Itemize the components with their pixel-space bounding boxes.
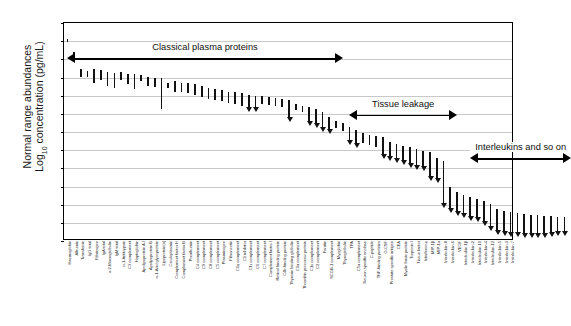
- down-arrow-icon: [455, 211, 461, 216]
- down-arrow-icon: [394, 158, 400, 163]
- x-axis-tick-label: Complement factor I: [269, 241, 273, 277]
- range-bar: [261, 96, 263, 104]
- down-arrow-icon: [448, 208, 454, 213]
- x-axis-tick-label: Interleukin-6: [451, 241, 455, 263]
- range-bar: [456, 192, 458, 212]
- range-bar: [281, 99, 283, 107]
- x-axis-tick-label: Retinol binding protein: [276, 241, 280, 281]
- range-bar: [537, 215, 539, 234]
- range-bar: [100, 70, 102, 80]
- x-axis-tick-label: IgM total: [115, 241, 119, 256]
- range-bar: [369, 135, 371, 145]
- x-axis-tick-label: Interleukin-3: [505, 241, 509, 263]
- down-arrow-icon: [408, 163, 414, 168]
- range-bar: [342, 123, 344, 131]
- x-axis-tick-label: Fibrinogen: [95, 241, 99, 260]
- x-axis-tick-label: Prostate specific antigen: [390, 241, 394, 284]
- x-axis-tick-label: Interleukin-12: [491, 241, 495, 265]
- x-axis-tick-label: Neuron specific enolase: [363, 241, 367, 284]
- down-arrow-icon: [475, 217, 481, 222]
- x-axis-tick-label: C7 complement: [263, 241, 267, 269]
- range-bar: [409, 147, 411, 163]
- down-arrow-icon: [495, 230, 501, 235]
- annotation-label: Tissue leakage: [349, 99, 456, 109]
- range-bar: [463, 195, 465, 214]
- range-bar: [550, 216, 552, 232]
- down-arrow-icon: [354, 143, 360, 148]
- x-axis-tick-label: C4b-binding protein: [283, 241, 287, 276]
- range-bar: [161, 78, 163, 110]
- down-arrow-icon: [508, 232, 514, 237]
- range-bar: [147, 77, 149, 86]
- x-axis-tick-label: Complement factor B: [182, 241, 186, 279]
- down-arrow-icon: [320, 127, 326, 132]
- arrow-right-icon: [335, 53, 343, 63]
- x-axis-tick-label: Myoglobin: [337, 241, 341, 259]
- x-axis-tick-label: C5a complement: [357, 241, 361, 271]
- x-axis-tick-label: C1q complement: [236, 241, 240, 271]
- x-axis-tick-label: Thrombin precursor protein: [303, 241, 307, 289]
- range-bar: [315, 109, 317, 124]
- down-arrow-icon: [555, 231, 561, 236]
- range-bar: [167, 83, 169, 88]
- x-axis-tick-label: Prealbumin: [189, 241, 193, 261]
- range-bar: [181, 83, 183, 93]
- annotation-line: [356, 115, 449, 117]
- range-bar: [174, 81, 176, 92]
- x-axis-tick-label: Interleukin-7: [511, 241, 515, 263]
- range-bar: [221, 90, 223, 101]
- range-bar: [228, 92, 230, 103]
- down-arrow-icon: [549, 232, 555, 237]
- x-axis-tick-label: MIP-1α: [437, 241, 441, 254]
- x-axis-tick-label: α-2-Macroglobulin: [108, 241, 112, 273]
- down-arrow-icon: [468, 216, 474, 221]
- down-arrow-icon: [515, 232, 521, 237]
- range-bar: [87, 71, 89, 78]
- range-bar: [295, 104, 297, 110]
- range-bar: [496, 209, 498, 231]
- range-bar: [490, 204, 492, 228]
- x-axis-tick-label: C5 complement: [216, 241, 220, 269]
- x-axis-tick-label: Apolipoprotein A-I: [142, 241, 146, 272]
- down-arrow-icon: [529, 233, 535, 238]
- range-bar: [288, 100, 290, 119]
- range-bar: [416, 149, 418, 165]
- x-axis-tick-label: Plasminogen: [222, 241, 226, 264]
- down-arrow-icon: [327, 129, 333, 134]
- x-axis-tick-label: Complement factor H: [175, 241, 179, 279]
- x-axis-tick-label: Apolipoprotein B: [149, 241, 153, 270]
- x-axis-tick-label: SCGB-1 complement: [330, 241, 334, 279]
- x-axis-tick-label: Thyroglobulin: [343, 241, 347, 265]
- range-bar: [268, 97, 270, 105]
- down-arrow-icon: [428, 176, 434, 181]
- down-arrow-icon: [421, 166, 427, 171]
- x-axis-tick-label: Tissue factor: [417, 241, 421, 264]
- x-axis-tick-label: IgA total: [102, 241, 106, 255]
- x-axis-tick-label: Thyroxin binding globulin: [290, 241, 294, 285]
- down-arrow-icon: [314, 123, 320, 128]
- x-axis-tick-label: TPA: [350, 241, 354, 249]
- x-axis-tick-label: C2 complement: [316, 241, 320, 269]
- range-bar: [476, 199, 478, 218]
- x-axis-tick-label: TNF-binding proteins: [377, 241, 381, 278]
- down-arrow-icon: [253, 107, 259, 112]
- range-bar: [127, 74, 129, 85]
- range-bar: [187, 83, 189, 93]
- range-bar: [302, 106, 304, 112]
- range-bar: [208, 88, 210, 99]
- down-arrow-icon: [522, 233, 528, 238]
- down-arrow-icon: [562, 231, 568, 236]
- y-axis-title: Normal range abundances Log10 concentrat…: [21, 7, 50, 207]
- range-bar: [154, 78, 156, 88]
- down-arrow-icon: [381, 154, 387, 159]
- x-axis-tick-label: Interleukin-2: [471, 241, 475, 263]
- x-axis-tick-label: Haptoglobin: [135, 241, 139, 262]
- range-bar: [543, 216, 545, 234]
- x-axis-tick-label: Interferon-γ: [424, 241, 428, 261]
- range-bar: [523, 214, 525, 234]
- x-axis-tick-label: MIP-1β: [431, 241, 435, 254]
- down-arrow-icon: [542, 233, 548, 238]
- y-axis-title-log: Log: [33, 154, 45, 172]
- down-arrow-icon: [441, 203, 447, 208]
- x-axis-tick-label: C3a complement: [296, 241, 300, 271]
